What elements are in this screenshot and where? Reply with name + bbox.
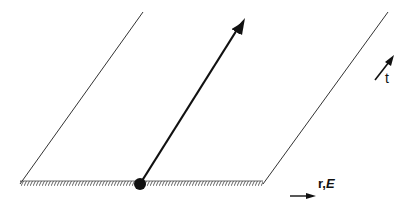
r-E-axis-label: r,E (318, 176, 335, 191)
left-boundary-line (20, 12, 143, 184)
r-axis-arrowhead-icon (306, 193, 316, 199)
spacetime-diagram (0, 0, 411, 211)
E-axis-label: E (326, 176, 335, 191)
r-axis-label: r, (318, 176, 326, 191)
world-line-arrow (140, 25, 240, 184)
t-axis-label: t (385, 70, 389, 86)
event-point (134, 178, 146, 190)
right-boundary-line (263, 12, 388, 184)
